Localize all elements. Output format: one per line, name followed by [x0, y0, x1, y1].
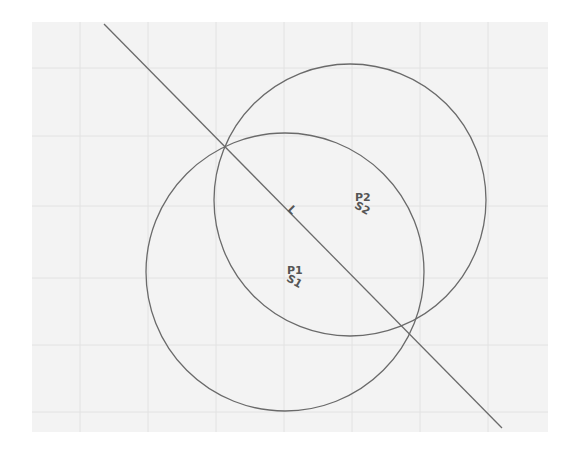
- geometry-canvas: L P2 S2 P1 S1: [0, 0, 568, 457]
- plot-area: [32, 22, 548, 432]
